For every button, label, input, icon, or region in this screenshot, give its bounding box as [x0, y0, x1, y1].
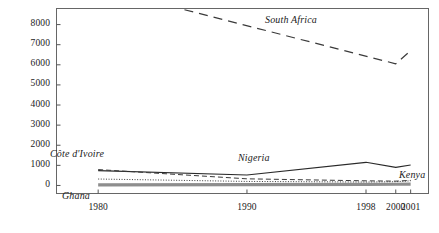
- x-tick-label: 1990: [222, 202, 272, 212]
- y-tick-label: 0: [0, 179, 50, 189]
- y-tick-label: 5000: [0, 78, 50, 88]
- x-axis-ticks: [98, 190, 410, 194]
- chart-container: 010002000300040005000600070008000 198019…: [0, 0, 439, 233]
- y-tick-label: 1000: [0, 159, 50, 169]
- y-tick-label: 6000: [0, 58, 50, 68]
- y-tick-label: 2000: [0, 139, 50, 149]
- series-label-nigeria: Nigeria: [238, 152, 270, 163]
- y-tick-label: 7000: [0, 38, 50, 48]
- x-tick-label: 1980: [73, 202, 123, 212]
- y-tick-label: 4000: [0, 99, 50, 109]
- series-label-kenya: Kenya: [399, 169, 425, 180]
- y-tick-label: 8000: [0, 18, 50, 28]
- plot-frame: [57, 9, 429, 194]
- x-tick-label: 2001: [386, 202, 436, 212]
- series-label-c-te-d-ivoire: Côte d'Ivoire: [50, 148, 104, 159]
- series-label-south-africa: South Africa: [265, 14, 317, 25]
- y-axis-ticks: [57, 25, 61, 186]
- series-label-ghana: Ghana: [62, 190, 90, 201]
- y-tick-label: 3000: [0, 119, 50, 129]
